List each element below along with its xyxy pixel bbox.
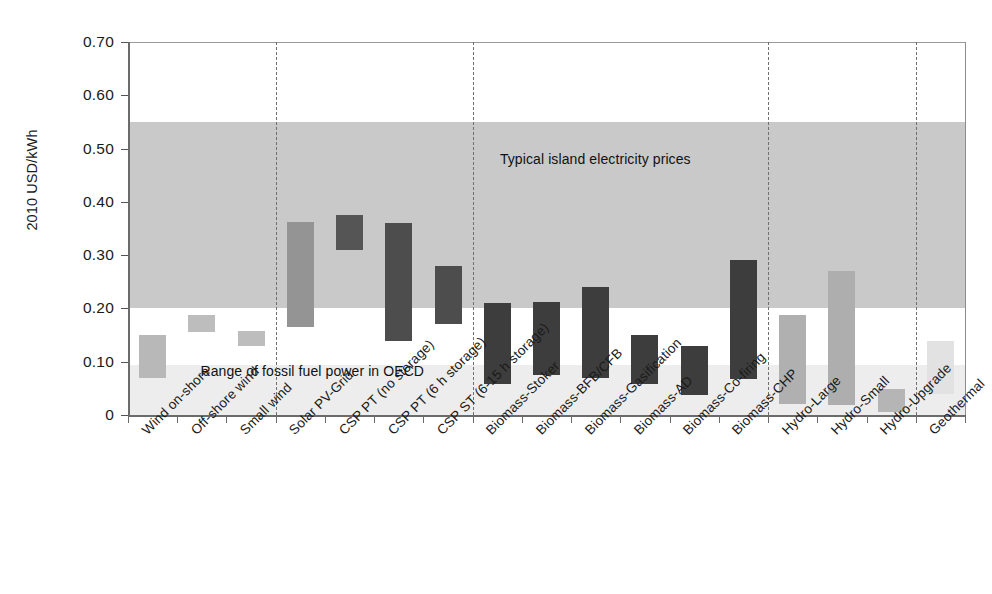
x-tick-mark — [670, 416, 671, 423]
x-tick-mark — [423, 416, 424, 423]
y-tick-label: 0 — [58, 407, 114, 423]
x-tick-mark — [817, 416, 818, 423]
x-tick-mark — [128, 416, 129, 423]
y-tick-mark — [121, 42, 128, 43]
y-tick-label: 0.20 — [58, 301, 114, 317]
x-tick-mark — [177, 416, 178, 423]
x-tick-mark — [522, 416, 523, 423]
y-tick-mark — [121, 415, 128, 416]
x-tick-mark — [916, 416, 917, 423]
range-bar — [385, 223, 412, 341]
plot-frame-top — [128, 42, 966, 43]
y-tick-label: 0.10 — [58, 354, 114, 370]
y-tick-mark — [121, 202, 128, 203]
range-bar — [435, 266, 462, 325]
x-tick-mark — [325, 416, 326, 423]
y-tick-mark — [121, 362, 128, 363]
y-tick-label: 0.60 — [58, 88, 114, 104]
y-tick-label: 0.30 — [58, 247, 114, 263]
x-tick-mark — [226, 416, 227, 423]
group-separator — [916, 42, 917, 415]
x-tick-mark — [768, 416, 769, 423]
range-bar — [287, 222, 314, 327]
chart-container: 2010 USD/kWh 0.700.600.500.400.300.200.1… — [0, 0, 992, 594]
range-bar — [238, 331, 265, 345]
x-tick-mark — [571, 416, 572, 423]
y-tick-label: 0.70 — [58, 34, 114, 50]
x-tick-mark — [719, 416, 720, 423]
annotation-island-prices: Typical island electricity prices — [500, 151, 691, 167]
x-tick-mark — [374, 416, 375, 423]
x-tick-mark — [965, 416, 966, 423]
x-tick-mark — [867, 416, 868, 423]
y-axis-title: 2010 USD/kWh — [24, 90, 40, 270]
y-tick-label: 0.40 — [58, 194, 114, 210]
y-tick-mark — [121, 255, 128, 256]
range-bar — [139, 335, 166, 378]
group-separator — [276, 42, 277, 415]
x-tick-mark — [276, 416, 277, 423]
x-tick-mark — [620, 416, 621, 423]
range-bar — [188, 315, 215, 332]
plot-frame-right — [965, 42, 966, 416]
range-bar — [336, 215, 363, 250]
y-tick-mark — [121, 149, 128, 150]
x-tick-mark — [473, 416, 474, 423]
y-tick-mark — [121, 95, 128, 96]
y-tick-mark — [121, 308, 128, 309]
y-tick-label: 0.50 — [58, 141, 114, 157]
y-axis-line — [128, 42, 130, 416]
